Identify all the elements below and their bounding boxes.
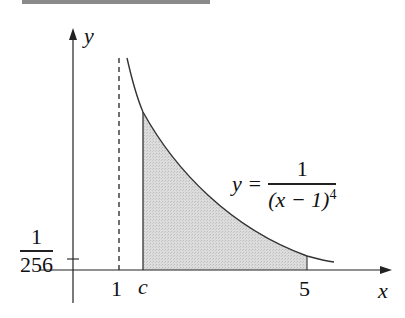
y-axis-arrow-icon (69, 28, 77, 40)
y-axis-label: y (84, 25, 94, 47)
equation-exponent: 4 (329, 187, 336, 202)
curve-equation: y = 1 (x − 1)4 (232, 158, 336, 211)
equation-fraction: 1 (x − 1)4 (268, 158, 336, 211)
x-axis-label: x (378, 280, 388, 302)
x-tick-label-1: 1 (111, 278, 122, 300)
x-axis-arrow-icon (380, 266, 392, 274)
equation-numerator: 1 (297, 158, 308, 183)
equation-denominator: (x − 1)4 (268, 185, 336, 211)
x-tick-label-5: 5 (299, 278, 310, 300)
x-tick-label-c: c (138, 276, 148, 298)
y-tick-numerator: 1 (29, 226, 44, 250)
graph-canvas (0, 0, 405, 318)
equation-lhs: y = (232, 173, 262, 195)
y-tick-label-fraction: 1 256 (20, 226, 53, 276)
y-tick-denominator: 256 (20, 252, 53, 276)
equation-denominator-base: (x − 1) (268, 187, 329, 212)
